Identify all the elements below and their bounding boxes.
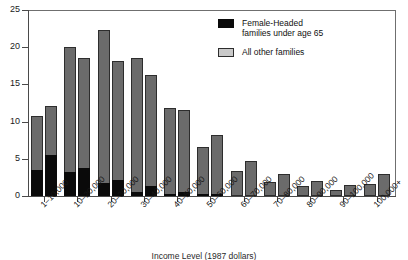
bar-group [131, 10, 164, 196]
bar-segment-female-headed [164, 194, 176, 196]
bar-segment-female-headed [131, 192, 143, 196]
y-axis-tick [22, 122, 28, 123]
y-axis-tick [22, 47, 28, 48]
legend-swatch-female-headed-icon [218, 19, 234, 28]
bar [98, 30, 110, 196]
legend: Female-Headed families under age 65 All … [218, 18, 388, 74]
bar [330, 190, 342, 196]
legend-item-all-other: All other families [218, 47, 388, 65]
legend-label-female-headed: Female-Headed families under age 65 [242, 18, 388, 38]
legend-label-female-headed-line1: Female-Headed [242, 18, 388, 28]
bar-segment-female-headed [31, 170, 43, 196]
bar-segment-female-headed [197, 194, 209, 196]
y-axis-tick [22, 196, 28, 197]
legend-label-female-headed-line2: families under age 65 [242, 28, 388, 38]
bar [197, 147, 209, 196]
bar [178, 110, 190, 196]
y-axis-tick [22, 84, 28, 85]
y-axis-tick-label: 20 [0, 42, 20, 51]
bar [112, 61, 124, 196]
bar [78, 58, 90, 196]
x-axis-labels: 1–10,00010–20,00020–30,00030–40,00040–50… [29, 197, 395, 257]
y-axis-tick [22, 159, 28, 160]
legend-swatch-all-other-icon [218, 48, 234, 57]
bar-group [31, 10, 64, 196]
y-axis-tick-label: 10 [0, 117, 20, 126]
bar-chart: 0510152025 1–10,00010–20,00020–30,00030–… [0, 0, 408, 260]
x-axis-title: Income Level (1987 dollars) [0, 252, 408, 260]
bar [64, 47, 76, 196]
legend-item-female-headed: Female-Headed families under age 65 [218, 18, 388, 38]
y-axis-tick-label: 25 [0, 5, 20, 14]
bar-group [98, 10, 131, 196]
bar-group [164, 10, 197, 196]
legend-label-all-other: All other families [242, 47, 388, 57]
bar-group [64, 10, 97, 196]
bar [145, 75, 157, 196]
bar [45, 106, 57, 196]
y-axis-tick-label: 15 [0, 79, 20, 88]
y-axis-tick-label: 0 [0, 191, 20, 200]
y-axis-tick-label: 5 [0, 154, 20, 163]
bar [31, 116, 43, 196]
y-axis-tick [22, 10, 28, 11]
